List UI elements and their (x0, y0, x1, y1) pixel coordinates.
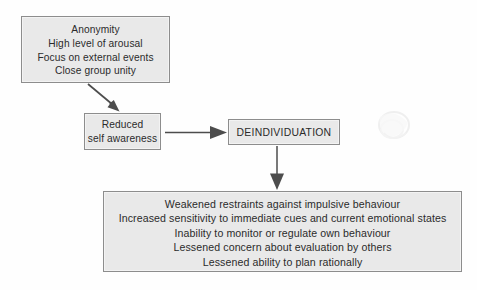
deindividuation-label: DEINDIVIDUATION (237, 126, 332, 139)
antecedents-line-3: Focus on external events (37, 51, 153, 65)
arrow-reduced-to-deindividuation (165, 126, 227, 139)
scan-smudge-artifact (368, 103, 420, 163)
reduced-line-2: self awareness (88, 132, 157, 145)
consequences-line-1: Weakened restraints against impulsive be… (165, 197, 400, 212)
diagram-canvas: Anonymity High level of arousal Focus on… (0, 0, 477, 290)
consequences-line-2: Increased sensitivity to immediate cues … (119, 211, 447, 226)
node-behavioural-consequences: Weakened restraints against impulsive be… (103, 191, 462, 272)
antecedents-line-1: Anonymity (71, 23, 119, 37)
node-deindividuation: DEINDIVIDUATION (228, 119, 340, 145)
arrow-antecedents-to-reduced (88, 84, 120, 112)
node-reduced-self-awareness: Reduced self awareness (84, 113, 161, 150)
node-antecedent-conditions: Anonymity High level of arousal Focus on… (21, 16, 170, 83)
antecedents-line-2: High level of arousal (48, 37, 142, 51)
reduced-line-1: Reduced (102, 118, 143, 131)
antecedents-line-4: Close group unity (55, 64, 136, 78)
consequences-line-4: Lessened concern about evaluation by oth… (173, 240, 391, 255)
arrow-deindividuation-to-consequences (270, 146, 284, 190)
consequences-line-5: Lessened ability to plan rationally (203, 255, 363, 270)
consequences-line-3: Inability to monitor or regulate own beh… (174, 226, 390, 241)
